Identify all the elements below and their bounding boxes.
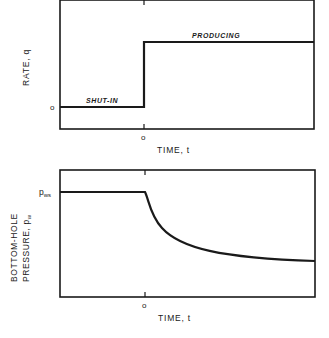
y-axis-label: RATE, q	[21, 49, 31, 86]
y-axis-label-line1: BOTTOM-HOLE	[9, 213, 19, 282]
pws-tick: pws	[39, 187, 51, 198]
x-zero-tick: o	[142, 301, 147, 310]
rate-chart-frame	[60, 0, 314, 129]
x-axis-label: TIME, t	[157, 145, 190, 155]
rate-chart: SHUT-IN PRODUCING o o TIME, t RATE, q	[21, 0, 314, 155]
y-axis-label-line2: PRESSURE, pw	[21, 214, 32, 282]
producing-label: PRODUCING	[192, 32, 240, 39]
pressure-chart-frame	[60, 170, 315, 297]
y-zero-tick: o	[50, 103, 55, 112]
drawdown-diagram: SHUT-IN PRODUCING o o TIME, t RATE, q pw…	[0, 0, 329, 338]
pressure-curve	[60, 192, 315, 261]
shut-in-label: SHUT-IN	[86, 97, 119, 104]
x-zero-tick: o	[141, 133, 146, 142]
x-axis-label: TIME, t	[158, 313, 191, 323]
pressure-chart: pws o TIME, t BOTTOM-HOLE PRESSURE, pw	[9, 170, 315, 323]
